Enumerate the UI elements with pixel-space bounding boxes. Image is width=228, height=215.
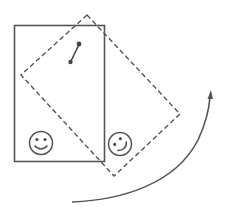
rotation-arrow-icon	[72, 90, 213, 202]
pin-icon	[68, 42, 81, 65]
smiley-original-icon	[30, 132, 53, 155]
rotation-diagram	[0, 0, 228, 215]
original-rectangle	[15, 26, 105, 162]
rotated-rectangle	[21, 15, 180, 176]
smiley-rotated-icon	[104, 128, 137, 161]
